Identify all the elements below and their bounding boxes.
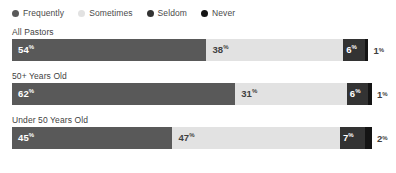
percent-sign: %	[223, 44, 228, 50]
stacked-bar-chart: FrequentlySometimesSeldomNever All Pasto…	[0, 0, 396, 173]
legend-item-label: Never	[212, 9, 235, 18]
chart-legend: FrequentlySometimesSeldomNever	[12, 6, 235, 20]
percent-sign: %	[352, 44, 357, 50]
percent-sign: %	[355, 88, 360, 94]
bar-segment-value: 31%	[235, 88, 257, 99]
chart-row: Under 50 Years Old45%47%7%2%	[0, 114, 396, 149]
bar-segment[interactable]: 2%	[365, 127, 372, 149]
bar-segment[interactable]: 6%	[343, 39, 365, 61]
bar-track: 54%38%6%1%	[12, 39, 372, 61]
chart-rows: All Pastors54%38%6%1%50+ Years Old62%31%…	[0, 26, 396, 149]
bar-segment-value: 54%	[12, 44, 34, 55]
bar-segment[interactable]: 7%	[340, 127, 365, 149]
legend-item[interactable]: Sometimes	[78, 9, 132, 18]
bar-segment-value-outside: 1%	[368, 39, 384, 61]
legend-dot-icon	[147, 10, 154, 17]
bar-segment[interactable]: 38%	[206, 39, 343, 61]
bar-track: 62%31%6%1%	[12, 83, 372, 105]
bar-segment[interactable]: 45%	[12, 127, 172, 149]
bar-segment[interactable]: 54%	[12, 39, 206, 61]
legend-item-label: Seldom	[158, 9, 187, 18]
chart-row: 50+ Years Old62%31%6%1%	[0, 70, 396, 105]
bar-track: 45%47%7%2%	[12, 127, 372, 149]
bar-segment-value: 7%	[340, 132, 354, 143]
bar-segment-value-outside: 1%	[372, 83, 388, 105]
legend-dot-icon	[12, 10, 19, 17]
legend-item[interactable]: Frequently	[12, 9, 64, 18]
bar-segment-value: 6%	[343, 44, 357, 55]
legend-dot-icon	[78, 10, 85, 17]
legend-item-label: Sometimes	[89, 9, 132, 18]
percent-sign: %	[382, 91, 387, 97]
bar-segment-value: 47%	[172, 132, 194, 143]
legend-item[interactable]: Never	[201, 9, 235, 18]
bar-segment-value-outside: 2%	[372, 127, 388, 149]
legend-item-label: Frequently	[23, 9, 64, 18]
percent-sign: %	[29, 44, 34, 50]
bar-segment[interactable]: 1%	[368, 83, 372, 105]
percent-sign: %	[382, 135, 387, 141]
bar-segment-value: 38%	[206, 44, 228, 55]
bar-segment-value: 45%	[12, 132, 34, 143]
legend-item[interactable]: Seldom	[147, 9, 187, 18]
row-spacer	[0, 61, 396, 70]
row-spacer	[0, 105, 396, 114]
row-label: Under 50 Years Old	[0, 114, 396, 127]
bar-segment[interactable]: 6%	[347, 83, 369, 105]
percent-sign: %	[189, 132, 194, 138]
legend-dot-icon	[201, 10, 208, 17]
bar-segment[interactable]: 31%	[235, 83, 347, 105]
bar-segment[interactable]: 62%	[12, 83, 235, 105]
bar-segment-value: 6%	[347, 88, 361, 99]
bar-segment[interactable]: 47%	[172, 127, 340, 149]
bar-segment[interactable]: 1%	[365, 39, 369, 61]
percent-sign: %	[252, 88, 257, 94]
row-label: 50+ Years Old	[0, 70, 396, 83]
percent-sign: %	[29, 88, 34, 94]
bar-segment-value: 62%	[12, 88, 34, 99]
percent-sign: %	[348, 132, 353, 138]
chart-row: All Pastors54%38%6%1%	[0, 26, 396, 61]
percent-sign: %	[29, 132, 34, 138]
percent-sign: %	[379, 47, 384, 53]
row-label: All Pastors	[0, 26, 396, 39]
